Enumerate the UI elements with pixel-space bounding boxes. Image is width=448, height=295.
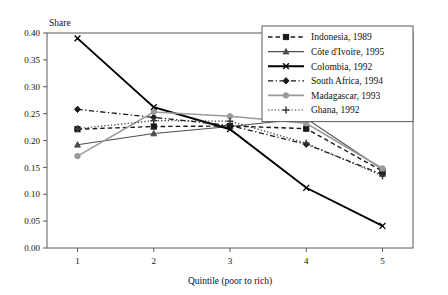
x-tick-label: 1 (75, 256, 80, 266)
data-point-marker (283, 34, 288, 39)
legend-label: Ghana, 1992 (311, 105, 360, 115)
legend-label: Colombia, 1992 (311, 62, 372, 72)
x-axis-ticks: 12345 (75, 248, 385, 266)
legend-label: Côte d'Ivoire, 1995 (311, 47, 384, 57)
x-tick-label: 2 (152, 256, 157, 266)
y-tick-label: 0.05 (24, 216, 40, 226)
chart-container: 0.000.050.100.150.200.250.300.350.40 123… (0, 0, 448, 295)
quintile-share-line-chart: 0.000.050.100.150.200.250.300.350.40 123… (0, 0, 448, 295)
y-axis-title: Share (49, 18, 71, 28)
x-tick-label: 3 (228, 256, 233, 266)
y-tick-label: 0.35 (24, 55, 40, 65)
legend-label: Madagascar, 1993 (311, 91, 381, 101)
data-point-marker (75, 153, 80, 158)
y-tick-label: 0.25 (24, 109, 40, 119)
series-line (78, 126, 383, 171)
data-point-marker (151, 124, 156, 129)
y-tick-label: 0.30 (24, 82, 40, 92)
data-point-marker (75, 106, 81, 112)
data-point-marker (75, 35, 81, 41)
data-point-marker (151, 109, 156, 114)
y-tick-label: 0.10 (24, 189, 40, 199)
x-axis-title: Quintile (poor to rich) (188, 276, 272, 287)
y-tick-label: 0.00 (24, 243, 40, 253)
y-tick-label: 0.40 (24, 28, 40, 38)
data-point-marker (304, 126, 309, 131)
y-tick-label: 0.20 (24, 136, 40, 146)
data-point-marker (380, 166, 385, 171)
x-tick-label: 5 (380, 256, 385, 266)
legend-label: Indonesia, 1989 (311, 32, 372, 42)
chart-legend: Indonesia, 1989Côte d'Ivoire, 1995Colomb… (262, 26, 413, 122)
y-tick-label: 0.15 (24, 163, 40, 173)
x-tick-label: 4 (304, 256, 309, 266)
y-axis-ticks: 0.000.050.100.150.200.250.300.350.40 (24, 28, 47, 253)
data-point-marker (283, 93, 288, 98)
legend-label: South Africa, 1994 (311, 76, 383, 86)
